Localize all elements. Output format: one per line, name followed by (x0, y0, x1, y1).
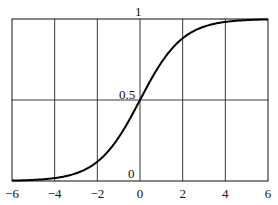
y-label-mid: 0.5 (119, 88, 135, 101)
x-tick-label: 2 (179, 187, 186, 200)
chart-plot (0, 0, 278, 205)
x-tick-label: −4 (48, 187, 62, 200)
x-tick-label: −2 (90, 187, 104, 200)
x-tick-label: 6 (265, 187, 272, 200)
y-label-bottom: 0 (128, 167, 135, 180)
x-tick-label: 0 (137, 187, 144, 200)
x-tick-label: 4 (222, 187, 229, 200)
y-label-top: 1 (135, 5, 142, 18)
x-tick-label: −6 (5, 187, 19, 200)
